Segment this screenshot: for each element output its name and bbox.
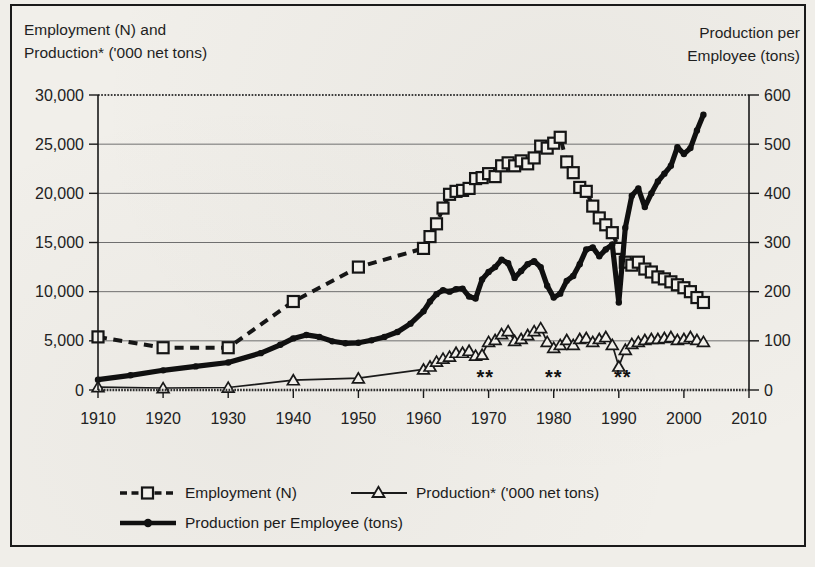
legend-item-employment: Employment (N) bbox=[119, 484, 297, 502]
x-axis-tick-label: 1920 bbox=[145, 410, 181, 427]
strike-asterisks: ** bbox=[477, 366, 495, 388]
x-axis-tick-label: 1950 bbox=[341, 410, 377, 427]
chart-plot: 05,00010,00015,00020,00025,00030,0000100… bbox=[0, 0, 815, 567]
x-axis-tick-label: 2000 bbox=[666, 410, 702, 427]
x-axis-tick-label: 1930 bbox=[210, 410, 246, 427]
strike-asterisks: ** bbox=[614, 366, 632, 388]
x-axis-tick-label: 1910 bbox=[80, 410, 116, 427]
left-axis-tick-label: 0 bbox=[75, 382, 84, 399]
left-axis-tick-label: 15,000 bbox=[35, 234, 84, 251]
x-axis-tick-label: 1990 bbox=[601, 410, 637, 427]
right-axis-tick-label: 600 bbox=[764, 87, 791, 104]
right-axis-tick-label: 100 bbox=[764, 332, 791, 349]
axis-labels: 05,00010,00015,00020,00025,00030,0000100… bbox=[35, 87, 791, 428]
left-axis-tick-label: 20,000 bbox=[35, 185, 84, 202]
right-axis-tick-label: 400 bbox=[764, 185, 791, 202]
dashed-line-square-marker-icon bbox=[119, 485, 177, 501]
left-axis-tick-label: 10,000 bbox=[35, 283, 84, 300]
strike-asterisks: ** bbox=[545, 366, 563, 388]
strike-annotations: ****** bbox=[477, 366, 632, 388]
left-axis-tick-label: 5,000 bbox=[44, 332, 84, 349]
right-axis-tick-label: 0 bbox=[764, 382, 773, 399]
right-axis-tick-label: 300 bbox=[764, 234, 791, 251]
legend-label-employment: Employment (N) bbox=[185, 484, 297, 502]
legend-label-production: Production* ('000 net tons) bbox=[416, 484, 599, 502]
x-axis-tick-label: 1980 bbox=[536, 410, 572, 427]
legend-item-productivity: Production per Employee (tons) bbox=[119, 514, 403, 532]
page-background: { "chart_data": { "type": "line", "title… bbox=[0, 0, 815, 567]
left-axis-tick-label: 25,000 bbox=[35, 136, 84, 153]
left-axis-tick-label: 30,000 bbox=[35, 87, 84, 104]
legend-item-production: Production* ('000 net tons) bbox=[350, 484, 599, 502]
right-axis-tick-label: 200 bbox=[764, 283, 791, 300]
x-axis-tick-label: 1940 bbox=[276, 410, 312, 427]
x-axis-tick-label: 1960 bbox=[406, 410, 442, 427]
right-axis-tick-label: 500 bbox=[764, 136, 791, 153]
solid-line-triangle-marker-icon bbox=[350, 485, 408, 501]
legend-label-productivity: Production per Employee (tons) bbox=[185, 514, 403, 532]
x-axis-tick-label: 1970 bbox=[471, 410, 507, 427]
thick-line-circle-marker-icon bbox=[119, 515, 177, 531]
x-axis-tick-label: 2010 bbox=[731, 410, 767, 427]
